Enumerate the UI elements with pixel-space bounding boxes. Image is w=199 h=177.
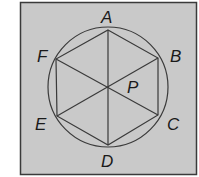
label-D: D [101, 152, 113, 171]
hexagon-diagram: A B C D E F P [0, 0, 199, 177]
label-E: E [35, 115, 47, 134]
label-B: B [170, 47, 181, 66]
label-P: P [127, 78, 139, 97]
label-C: C [167, 115, 180, 134]
label-F: F [37, 47, 49, 66]
label-A: A [100, 8, 112, 27]
